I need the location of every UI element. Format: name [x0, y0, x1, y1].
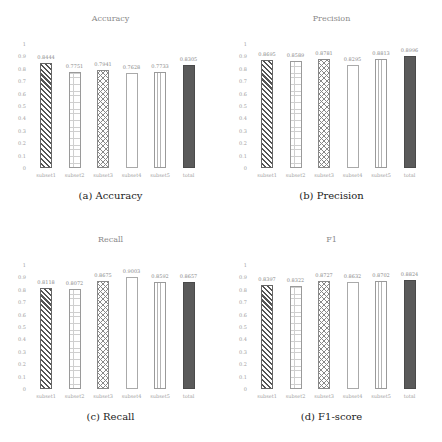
y-tick-label: 0.5: [229, 103, 247, 109]
bar-value-label: 0.8824: [395, 271, 425, 277]
y-tick-label: 0.5: [229, 324, 247, 330]
bar-subset4: [347, 282, 359, 389]
bar-value-label: 0.8397: [252, 276, 282, 282]
bar-subset5: [375, 59, 387, 168]
bar-value-label: 0.8813: [366, 50, 396, 56]
bar-subset3: [318, 281, 330, 389]
bar-subset4: [347, 65, 359, 168]
x-tick-label: total: [174, 172, 204, 178]
plot-area: 00.10.20.30.40.50.60.70.80.910.8695subse…: [221, 0, 442, 221]
bar-subset5: [154, 72, 166, 168]
y-tick-label: 0: [8, 165, 26, 171]
y-tick-label: 0.7: [8, 78, 26, 84]
panel-accuracy: Accuracy 00.10.20.30.40.50.60.70.80.910.…: [0, 0, 221, 221]
bar-value-label: 0.8072: [60, 280, 90, 286]
y-tick-label: 0.1: [229, 374, 247, 380]
y-tick-label: 1: [8, 41, 26, 47]
bar-value-label: 0.8727: [309, 272, 339, 278]
y-tick-label: 0: [229, 165, 247, 171]
x-tick-label: subset5: [366, 172, 396, 178]
bar-value-label: 0.8695: [252, 51, 282, 57]
x-tick-label: subset3: [309, 172, 339, 178]
y-tick-label: 0.6: [229, 91, 247, 97]
bar-value-label: 0.9003: [117, 268, 147, 274]
figure-caption: (c) Recall: [0, 411, 221, 422]
y-tick-label: 0.3: [8, 349, 26, 355]
x-tick-label: subset5: [145, 393, 175, 399]
y-tick-label: 0.4: [8, 336, 26, 342]
x-tick-label: subset1: [31, 172, 61, 178]
x-tick-label: total: [174, 393, 204, 399]
bar-subset5: [375, 281, 387, 389]
plot-area: 00.10.20.30.40.50.60.70.80.910.8444subse…: [0, 0, 221, 221]
y-tick-label: 0.5: [8, 103, 26, 109]
bar-value-label: 0.7628: [117, 64, 147, 70]
y-tick-label: 0.1: [229, 153, 247, 159]
bar-value-label: 0.8118: [31, 279, 61, 285]
plot-area: 00.10.20.30.40.50.60.70.80.910.8118subse…: [0, 221, 221, 442]
figure-caption: (b) Precision: [221, 190, 442, 201]
x-tick-label: total: [395, 172, 425, 178]
bar-subset2: [290, 286, 302, 389]
bar-subset1: [40, 288, 52, 389]
y-tick-label: 0.4: [229, 115, 247, 121]
bar-subset2: [290, 61, 302, 168]
y-tick-label: 0: [229, 386, 247, 392]
x-tick-label: subset3: [88, 393, 118, 399]
plot-area: 00.10.20.30.40.50.60.70.80.910.8397subse…: [221, 221, 442, 442]
y-tick-label: 0.6: [229, 312, 247, 318]
y-tick-label: 0.6: [8, 312, 26, 318]
bar-value-label: 0.8702: [366, 272, 396, 278]
x-tick-label: subset5: [145, 172, 175, 178]
x-tick-label: subset4: [117, 393, 147, 399]
bar-total: [183, 282, 195, 389]
bar-total: [404, 280, 416, 389]
x-tick-label: subset3: [309, 393, 339, 399]
x-tick-label: subset3: [88, 172, 118, 178]
x-tick-label: total: [395, 393, 425, 399]
figure-caption: (d) F1-score: [221, 411, 442, 422]
bar-value-label: 0.8781: [309, 50, 339, 56]
y-tick-label: 0.9: [229, 274, 247, 280]
y-tick-label: 0.8: [8, 287, 26, 293]
bar-subset1: [40, 63, 52, 168]
y-tick-label: 0.4: [8, 115, 26, 121]
x-tick-label: subset1: [252, 393, 282, 399]
x-tick-label: subset4: [117, 172, 147, 178]
bar-value-label: 0.8675: [88, 272, 118, 278]
x-tick-label: subset1: [31, 393, 61, 399]
bar-value-label: 0.8632: [338, 273, 368, 279]
bar-value-label: 0.7751: [60, 63, 90, 69]
bar-value-label: 0.8322: [281, 277, 311, 283]
y-tick-label: 0.2: [8, 361, 26, 367]
y-tick-label: 1: [229, 262, 247, 268]
bar-value-label: 0.7941: [88, 61, 118, 67]
y-tick-label: 0.2: [229, 361, 247, 367]
bar-subset3: [97, 281, 109, 389]
bar-value-label: 0.8295: [338, 56, 368, 62]
bar-value-label: 0.8589: [281, 52, 311, 58]
y-tick-label: 0.6: [8, 91, 26, 97]
bar-value-label: 0.8592: [145, 273, 175, 279]
y-tick-label: 0.2: [8, 140, 26, 146]
y-tick-label: 0.9: [8, 53, 26, 59]
y-tick-label: 0.8: [229, 287, 247, 293]
y-tick-label: 0.4: [229, 336, 247, 342]
y-tick-label: 0.1: [8, 153, 26, 159]
y-tick-label: 0.2: [229, 140, 247, 146]
bar-total: [183, 65, 195, 168]
y-tick-label: 0.7: [229, 78, 247, 84]
x-tick-label: subset4: [338, 393, 368, 399]
y-tick-label: 0.5: [8, 324, 26, 330]
bar-subset4: [126, 73, 138, 168]
y-tick-label: 0.3: [8, 128, 26, 134]
x-tick-label: subset2: [281, 393, 311, 399]
bar-value-label: 0.8305: [174, 56, 204, 62]
bar-subset2: [69, 72, 81, 168]
y-tick-label: 0.3: [229, 128, 247, 134]
x-tick-label: subset2: [281, 172, 311, 178]
y-tick-label: 0.7: [229, 299, 247, 305]
bar-value-label: 0.7733: [145, 63, 175, 69]
bar-subset3: [318, 59, 330, 168]
panel-precision: Precision 00.10.20.30.40.50.60.70.80.910…: [221, 0, 442, 221]
